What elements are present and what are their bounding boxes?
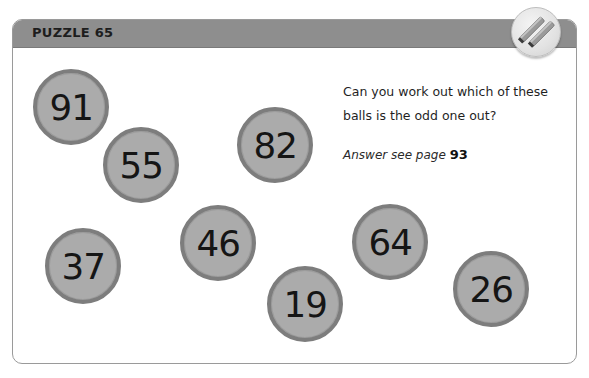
ball-number: 82 [253, 126, 296, 166]
pencils-badge [511, 7, 561, 57]
ball-number: 19 [283, 285, 326, 325]
answer-prefix: Answer see page [343, 148, 446, 162]
ball[interactable]: 55 [103, 127, 179, 203]
ball[interactable]: 46 [180, 205, 256, 281]
ball-number: 46 [196, 224, 239, 264]
answer-reference: Answer see page93 [343, 147, 468, 162]
ball[interactable]: 19 [267, 266, 343, 342]
answer-page-number: 93 [450, 147, 468, 162]
ball[interactable]: 64 [352, 204, 428, 280]
ball-number: 91 [49, 88, 92, 128]
pencils-icon [512, 8, 562, 58]
ball-number: 64 [368, 223, 411, 263]
ball-number: 55 [119, 146, 162, 186]
question-text: Can you work out which of these balls is… [343, 80, 573, 128]
ball[interactable]: 26 [453, 251, 529, 327]
ball-number: 37 [61, 247, 104, 287]
puzzle-title: PUZZLE 65 [32, 25, 113, 40]
ball[interactable]: 37 [45, 228, 121, 304]
ball[interactable]: 82 [237, 107, 313, 183]
ball[interactable]: 91 [33, 69, 109, 145]
header-band: PUZZLE 65 [13, 20, 576, 48]
ball-number: 26 [469, 270, 512, 310]
